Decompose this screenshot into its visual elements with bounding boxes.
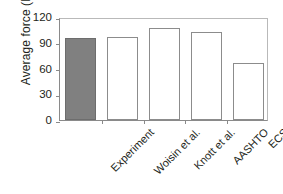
y-tick-label: 0 (26, 115, 52, 127)
y-tick-mark (56, 96, 60, 97)
y-tick-label: 120 (26, 12, 52, 24)
bar-aashto (191, 32, 222, 120)
bar-experiment (65, 38, 96, 120)
y-axis-tick-labels: 0306090120 (22, 0, 52, 194)
y-tick-label: 30 (26, 89, 52, 101)
bar-chart: Average force (MN) 0306090120 Experiment… (0, 0, 283, 194)
x-tick-mark (102, 120, 103, 124)
x-tick-label: ECS (266, 126, 283, 150)
y-tick-mark (56, 122, 60, 123)
y-tick-label: 90 (26, 38, 52, 50)
x-tick-label: Woisin et al. (151, 126, 202, 177)
bar-knott-et-al (149, 28, 180, 120)
plot-area (59, 18, 268, 121)
bar-woisin-et-al (107, 37, 138, 120)
x-tick-mark (227, 120, 228, 124)
x-tick-label: AASHTO (230, 126, 270, 166)
y-tick-mark (56, 19, 60, 20)
y-tick-mark (56, 70, 60, 71)
bar-ecs (233, 63, 264, 120)
x-tick-mark (185, 120, 186, 124)
x-tick-mark (144, 120, 145, 124)
y-tick-label: 60 (26, 64, 52, 76)
x-tick-label: Experiment (108, 126, 156, 174)
y-tick-mark (56, 44, 60, 45)
